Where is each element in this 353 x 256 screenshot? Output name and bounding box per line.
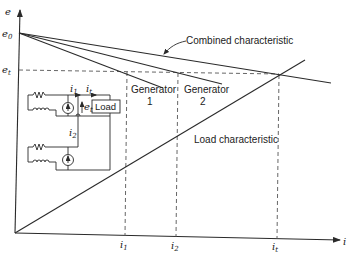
- x-axis: [15, 233, 340, 240]
- circuit-schematic: i1 it Load et i2: [28, 83, 120, 170]
- i2-circuit-label: i2: [69, 127, 77, 140]
- et-label: et: [2, 64, 11, 77]
- i1-circuit-label: i1: [70, 83, 78, 96]
- e0-label: e0: [2, 28, 13, 41]
- generator2-number: 2: [200, 96, 206, 107]
- resistor2-icon: [33, 144, 45, 150]
- i2-dashed-line: [176, 73, 178, 237]
- resistor1-icon: [33, 92, 45, 98]
- i1-dashed-line: [125, 72, 127, 236]
- it-dashed-line: [277, 75, 279, 239]
- generator2-label: Generator: [184, 84, 230, 95]
- field-coil1-icon: [33, 108, 49, 110]
- it-label: it: [272, 241, 278, 254]
- parallel-generators-diagram: e i e0 et i1 i2 it Combined characterist…: [0, 0, 353, 256]
- load-label: Load: [95, 101, 116, 112]
- i1-label: i1: [120, 239, 128, 252]
- x-axis-label: i: [343, 236, 346, 247]
- et-dashed-line: [19, 70, 279, 74]
- generator1-label: Generator: [131, 84, 177, 95]
- y-axis-label: e: [5, 6, 11, 17]
- load-characteristic-label: Load characteristic: [194, 134, 278, 145]
- field-coil2-icon: [33, 160, 49, 162]
- y-axis: [15, 10, 20, 233]
- generator1-characteristic-line: [19, 33, 163, 88]
- i2-label: i2: [171, 240, 179, 253]
- it-circuit-label: it: [86, 83, 92, 96]
- generator1-number: 1: [147, 96, 153, 107]
- combined-characteristic-label: Combined characteristic: [186, 35, 293, 46]
- combined-pointer-arrow: [164, 41, 186, 54]
